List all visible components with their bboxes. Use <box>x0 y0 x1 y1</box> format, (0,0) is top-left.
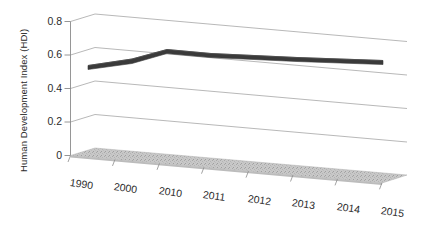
gridline-0-2 <box>71 115 408 143</box>
floor-plate <box>71 148 408 185</box>
series-hdi-ribbon <box>88 50 383 70</box>
gridline-0-4 <box>71 81 408 109</box>
series-hdi <box>88 50 383 70</box>
y-tick-label-0: 0 <box>22 149 62 161</box>
y-tick-label-0-4: 0.4 <box>22 82 62 94</box>
y-tick-label-0-2: 0.2 <box>22 115 62 127</box>
y-tick-label-0-6: 0.6 <box>22 48 62 60</box>
gridlines <box>71 14 408 142</box>
floor-top-face <box>71 148 408 183</box>
y-tick-label-0-8: 0.8 <box>22 15 62 27</box>
gridline-0-8 <box>71 14 408 42</box>
x-tick-1990 <box>68 156 71 163</box>
chart-3d-line-hdi: Human Development Index (HDI) 0.8 0.6 0.… <box>0 0 427 227</box>
y-axis <box>65 22 71 156</box>
